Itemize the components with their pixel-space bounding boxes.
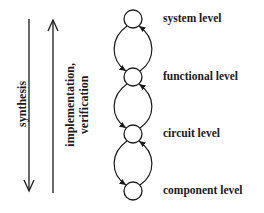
loop-functional-circuit: [114, 84, 152, 128]
label-implementation: implementation,: [64, 55, 78, 155]
level-node-functional: [124, 68, 142, 86]
design-levels-diagram: [0, 0, 264, 213]
label-functional-level: functional level: [163, 71, 238, 83]
label-implementation-verification: implementation, verification: [64, 55, 92, 155]
loop-circuit-component: [114, 141, 152, 185]
label-circuit-level: circuit level: [163, 128, 220, 140]
label-system-level: system level: [163, 13, 221, 25]
level-node-component: [124, 182, 142, 200]
level-node-circuit: [124, 125, 142, 143]
label-verification: verification: [78, 55, 92, 155]
label-synthesis: synthesis: [16, 69, 30, 139]
implementation-arrow: [48, 20, 58, 193]
label-component-level: component level: [163, 185, 243, 197]
level-node-system: [124, 10, 142, 28]
loop-system-functional: [114, 26, 152, 71]
